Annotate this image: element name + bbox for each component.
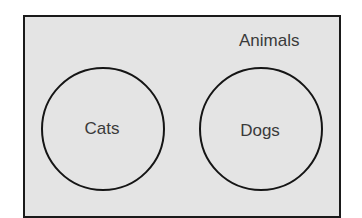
set-label-cats: Cats xyxy=(85,120,120,137)
set-label-dogs: Dogs xyxy=(240,122,280,139)
universe-label: Animals xyxy=(239,32,299,49)
